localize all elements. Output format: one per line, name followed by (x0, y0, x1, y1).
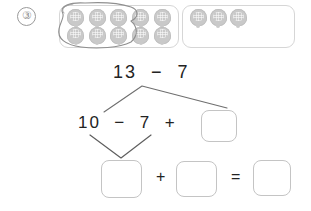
counter-nub (160, 41, 164, 45)
answer-box-first-term[interactable] (101, 160, 142, 198)
counter (67, 27, 84, 44)
answer-box-second-term[interactable] (176, 161, 217, 197)
counter (110, 27, 127, 44)
counter (190, 9, 207, 26)
problem-number-badge: ③ (17, 7, 36, 26)
plus-sign: + (156, 168, 165, 186)
counter-nub (139, 41, 143, 45)
counter-nub (196, 24, 200, 28)
left-counter-grid (60, 6, 178, 47)
counter-nub (74, 41, 78, 45)
right-counter-grid (183, 6, 294, 47)
counter-nub (117, 41, 121, 45)
equals-sign: = (231, 168, 240, 186)
right-ten-frame (182, 5, 295, 48)
answer-box-addend-top[interactable] (201, 110, 237, 142)
worksheet-problem: ③ 13 − 7 10 − 7 + (0, 0, 311, 211)
left-ten-frame (59, 5, 179, 48)
answer-box-result[interactable] (253, 160, 291, 196)
counter (67, 9, 84, 26)
counter (230, 9, 247, 26)
counter (154, 27, 171, 44)
counter-nub (95, 41, 99, 45)
top-equation: 13 − 7 (113, 62, 190, 83)
middle-equation: 10 − 7 + (78, 113, 177, 133)
counter (210, 9, 227, 26)
counter-nub (216, 24, 220, 28)
counter-nub (236, 24, 240, 28)
counter (110, 9, 127, 26)
counter (132, 9, 149, 26)
counter (89, 27, 106, 44)
counter (89, 9, 106, 26)
counter (132, 27, 149, 44)
counter (154, 9, 171, 26)
